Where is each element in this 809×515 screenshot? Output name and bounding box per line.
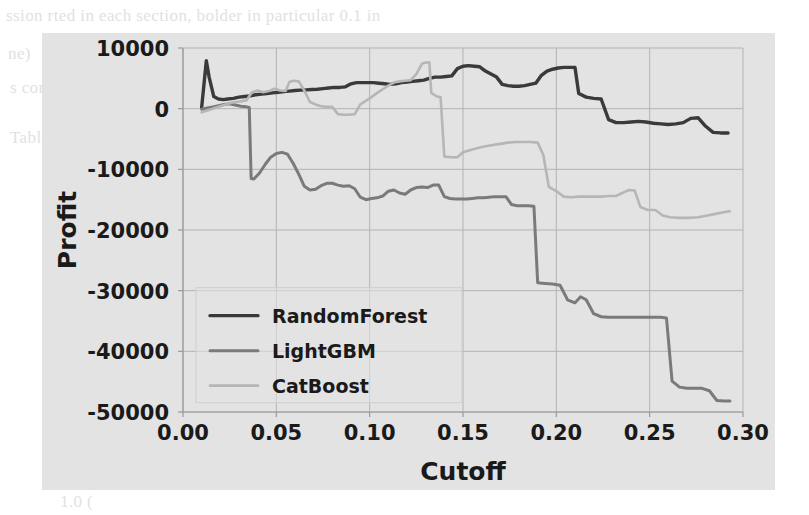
legend-label-randomforest: RandomForest: [272, 305, 427, 327]
legend-label-lightgbm: LightGBM: [272, 340, 376, 362]
y-tick-label-6: -50000: [87, 401, 169, 425]
series-line-catboost: [202, 63, 730, 218]
x-tick-label-6: 0.30: [717, 421, 769, 445]
bleed-line-1: ssion rted in each section, bolder in pa…: [6, 6, 381, 26]
bleed-line-2: ne): [8, 44, 31, 64]
x-tick-label-4: 0.20: [530, 421, 582, 445]
y-axis-label: Profit: [53, 191, 82, 269]
bleed-line-10: 1.0 (: [60, 492, 93, 512]
y-tick-label-4: -30000: [87, 280, 169, 304]
chart-legend[interactable]: RandomForestLightGBMCatBoost: [196, 288, 462, 403]
y-tick-label-5: -40000: [87, 340, 169, 364]
profit-vs-cutoff-line-chart: 0.000.050.100.150.200.250.30 100000-1000…: [42, 33, 775, 490]
x-tick-labels: 0.000.050.100.150.200.250.30: [157, 412, 769, 445]
legend-label-catboost: CatBoost: [272, 375, 369, 397]
series-line-randomforest: [202, 61, 728, 133]
y-tick-label-1: 0: [154, 98, 169, 122]
y-tick-label-2: -10000: [87, 158, 169, 182]
y-tick-labels: 100000-10000-20000-30000-40000-50000: [87, 37, 183, 425]
y-tick-label-0: 10000: [96, 37, 169, 61]
y-tick-label-3: -20000: [87, 219, 169, 243]
x-tick-label-2: 0.10: [344, 421, 396, 445]
x-tick-label-5: 0.25: [624, 421, 676, 445]
chart-figure: 0.000.050.100.150.200.250.30 100000-1000…: [42, 33, 775, 490]
x-axis-label: Cutoff: [420, 457, 506, 486]
x-tick-label-1: 0.05: [250, 421, 302, 445]
x-tick-label-3: 0.15: [437, 421, 489, 445]
